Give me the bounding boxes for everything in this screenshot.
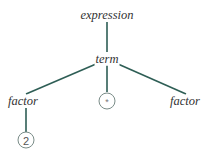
node-literal-2: 2: [18, 132, 35, 149]
node-term: term: [95, 53, 120, 66]
node-factor-right: factor: [169, 95, 201, 108]
node-expression: expression: [80, 9, 135, 22]
node-factor-left: factor: [7, 95, 39, 108]
edge-term-factor-right: [118, 64, 186, 94]
node-operator-multiply: *: [99, 93, 116, 110]
edge-term-factor-left: [26, 64, 96, 94]
